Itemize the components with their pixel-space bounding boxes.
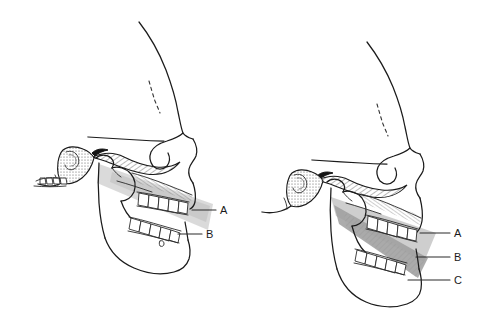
skull-comparison-illustration: A B xyxy=(0,0,482,325)
label-b-left: B xyxy=(206,228,213,240)
label-b-right: B xyxy=(454,251,461,263)
anatomy-figure: A B xyxy=(0,0,482,325)
label-a-right: A xyxy=(454,227,462,239)
label-a-left: A xyxy=(220,204,228,216)
label-c-right: C xyxy=(454,274,462,286)
